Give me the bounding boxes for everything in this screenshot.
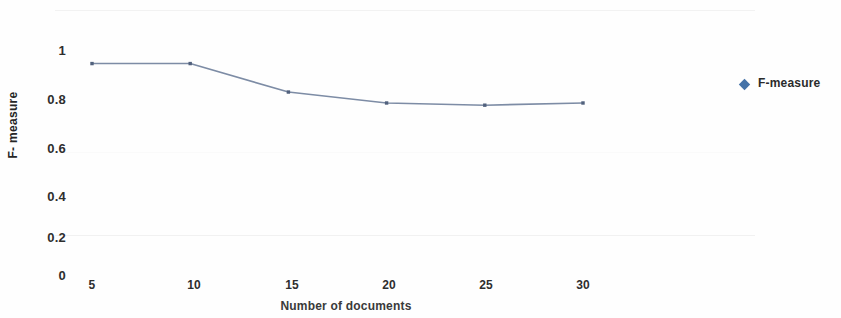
legend: F-measure	[738, 76, 821, 90]
data-markers-f-measure	[90, 62, 584, 107]
legend-label-f-measure: F-measure	[758, 76, 821, 90]
data-point	[287, 90, 290, 93]
chart-figure: F- measure 1 0.8 0.6 0.4 0.2 0 5 10 15 2…	[0, 0, 841, 318]
data-line-f-measure	[92, 64, 583, 106]
data-point	[581, 101, 584, 104]
data-point	[90, 62, 93, 65]
data-point	[385, 101, 388, 104]
plot-area	[0, 0, 841, 318]
data-point	[189, 62, 192, 65]
data-point	[483, 103, 486, 106]
legend-diamond-icon	[738, 77, 751, 90]
